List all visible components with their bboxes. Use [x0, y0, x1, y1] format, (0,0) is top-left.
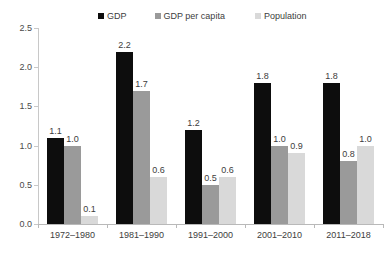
x-axis-category-label: 1991–2000: [176, 231, 245, 240]
legend-entry[interactable]: GDP per capita: [155, 12, 225, 21]
bar[interactable]: 1.1: [47, 138, 64, 224]
bar-value-label: 1.8: [256, 72, 269, 81]
x-axis-line: [38, 224, 383, 225]
bar-group: 1.80.81.0: [323, 28, 374, 224]
bar-value-label: 0.8: [342, 150, 355, 159]
bar[interactable]: 0.8: [340, 161, 357, 224]
legend-label: GDP per capita: [164, 12, 225, 21]
y-axis-tick: [34, 185, 38, 186]
bar-value-label: 1.1: [49, 127, 62, 136]
x-axis-category-label: 2001–2010: [245, 231, 314, 240]
y-axis-tick-label: 0.0: [19, 220, 32, 229]
x-axis-tick: [176, 224, 177, 228]
legend-label: Population: [264, 12, 307, 21]
bar[interactable]: 1.8: [323, 83, 340, 224]
legend-swatch-icon: [98, 13, 104, 19]
bar-value-label: 0.5: [204, 174, 217, 183]
bar-value-label: 1.7: [135, 80, 148, 89]
bar-value-label: 0.1: [83, 205, 96, 214]
bar[interactable]: 0.6: [219, 177, 236, 224]
bar-value-label: 0.9: [290, 142, 303, 151]
chart-legend: GDPGDP per capitaPopulation: [98, 9, 358, 23]
bar-value-label: 2.2: [118, 41, 131, 50]
y-axis-tick-label: 0.5: [19, 180, 32, 189]
legend-label: GDP: [107, 12, 127, 21]
bar[interactable]: 1.8: [254, 83, 271, 224]
bar-chart: GDPGDP per capitaPopulation 0.00.51.01.5…: [0, 0, 390, 256]
y-axis-tick: [34, 106, 38, 107]
bar-group: 1.11.00.1: [47, 28, 98, 224]
y-axis-tick-label: 2.5: [19, 24, 32, 33]
y-axis-tick: [34, 67, 38, 68]
y-axis-tick: [34, 28, 38, 29]
y-axis-line: [38, 28, 39, 224]
bar-group: 2.21.70.6: [116, 28, 167, 224]
legend-swatch-icon: [155, 13, 161, 19]
bar[interactable]: 0.9: [288, 153, 305, 224]
bar-value-label: 0.6: [221, 166, 234, 175]
legend-entry[interactable]: Population: [255, 12, 307, 21]
y-axis-tick-label: 1.0: [19, 141, 32, 150]
bar[interactable]: 0.6: [150, 177, 167, 224]
x-axis-category-label: 1972–1980: [38, 231, 107, 240]
x-axis-tick: [245, 224, 246, 228]
legend-swatch-icon: [255, 13, 261, 19]
bar-value-label: 0.6: [152, 166, 165, 175]
bar[interactable]: 1.2: [185, 130, 202, 224]
bar[interactable]: 1.0: [357, 146, 374, 224]
bar-value-label: 1.0: [273, 135, 286, 144]
x-axis-tick: [314, 224, 315, 228]
x-axis-category-label: 2011–2018: [314, 231, 383, 240]
x-axis-tick: [38, 224, 39, 228]
bar[interactable]: 2.2: [116, 52, 133, 224]
y-axis-tick-label: 1.5: [19, 102, 32, 111]
bar[interactable]: 0.1: [81, 216, 98, 224]
bar[interactable]: 1.0: [64, 146, 81, 224]
x-axis-tick: [107, 224, 108, 228]
bar[interactable]: 1.7: [133, 91, 150, 224]
y-axis-tick: [34, 146, 38, 147]
bar[interactable]: 1.0: [271, 146, 288, 224]
bar-value-label: 1.0: [66, 135, 79, 144]
bar-group: 1.81.00.9: [254, 28, 305, 224]
bar-value-label: 1.2: [187, 119, 200, 128]
bar-value-label: 1.0: [359, 135, 372, 144]
legend-entry[interactable]: GDP: [98, 12, 127, 21]
plot-area: 0.00.51.01.52.02.51.11.00.11972–19802.21…: [38, 28, 383, 224]
x-axis-tick: [383, 224, 384, 228]
bar-group: 1.20.50.6: [185, 28, 236, 224]
bar-value-label: 1.8: [325, 72, 338, 81]
x-axis-category-label: 1981–1990: [107, 231, 176, 240]
y-axis-tick-label: 2.0: [19, 63, 32, 72]
bar[interactable]: 0.5: [202, 185, 219, 224]
